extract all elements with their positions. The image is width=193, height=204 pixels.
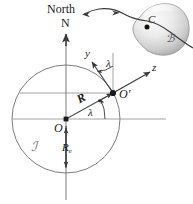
body-point-c-marker [145, 25, 150, 30]
latitude-angle-label-lower: λ [88, 107, 93, 118]
latitude-angle-arc-lower [101, 100, 106, 120]
origin-label: O [54, 122, 63, 134]
body-point-label: C [148, 14, 155, 25]
figure-earth-rotating-frame: North N y z λ λ O′ O R Re ℐ C ℬ [0, 0, 193, 204]
body-frame-label: ℬ [166, 33, 175, 44]
north-label: North [47, 3, 75, 15]
rigid-body-blob [133, 4, 189, 56]
surface-point-label: O′ [119, 88, 130, 100]
z-axis-label: z [152, 62, 156, 73]
earth-radius-subscript: e [69, 147, 72, 154]
north-axis-label: N [61, 17, 70, 29]
y-axis-label: y [85, 48, 90, 59]
earth-radius-base: R [62, 141, 69, 153]
earth-radius-label: Re [62, 142, 72, 155]
latitude-angle-label-upper: λ [106, 58, 111, 69]
inertial-frame-label: ℐ [31, 140, 37, 153]
figure-vector-graphics [0, 0, 193, 204]
